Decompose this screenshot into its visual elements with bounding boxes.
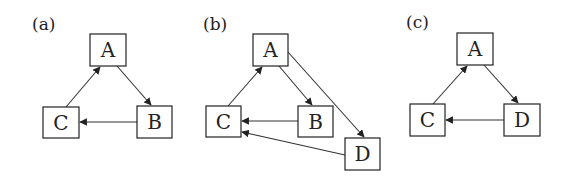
node-d: D	[345, 138, 380, 170]
node-c: C	[43, 107, 79, 138]
node-a: A	[253, 34, 288, 66]
edge-a-to-d-arrow-icon	[484, 65, 518, 103]
diagram-canvas: (a)ABC(b)ABCD(c)ACD	[0, 0, 567, 178]
panel-label: (c)	[406, 12, 429, 32]
edge-a-to-b-arrow-icon	[117, 66, 151, 105]
node-label: C	[420, 108, 435, 132]
edge-c-to-a-arrow-icon	[66, 67, 100, 107]
panel-label: (b)	[203, 14, 227, 34]
node-b: B	[298, 106, 333, 137]
node-label: D	[354, 142, 370, 166]
node-label: B	[147, 110, 162, 134]
node-label: C	[216, 110, 231, 134]
node-label: A	[262, 38, 278, 62]
edge-c-to-a-arrow-icon	[433, 66, 467, 104]
node-label: C	[53, 111, 68, 135]
node-a: A	[90, 34, 126, 66]
panel-label: (a)	[32, 14, 55, 34]
node-label: B	[308, 110, 323, 134]
node-label: D	[514, 108, 530, 132]
panel-b: (b)ABCD	[203, 14, 380, 170]
node-label: A	[100, 38, 116, 62]
node-a: A	[457, 33, 493, 65]
panel-a: (a)ABC	[32, 14, 172, 138]
edge-a-to-b-arrow-icon	[279, 66, 312, 105]
node-d: D	[504, 104, 540, 136]
node-label: A	[467, 37, 483, 61]
edge-c-to-a-arrow-icon	[228, 67, 262, 106]
node-b: B	[137, 106, 172, 138]
panel-c: (c)ACD	[406, 12, 540, 136]
node-c: C	[206, 106, 241, 137]
node-c: C	[410, 104, 445, 136]
panels: (a)ABC(b)ABCD(c)ACD	[32, 12, 540, 170]
